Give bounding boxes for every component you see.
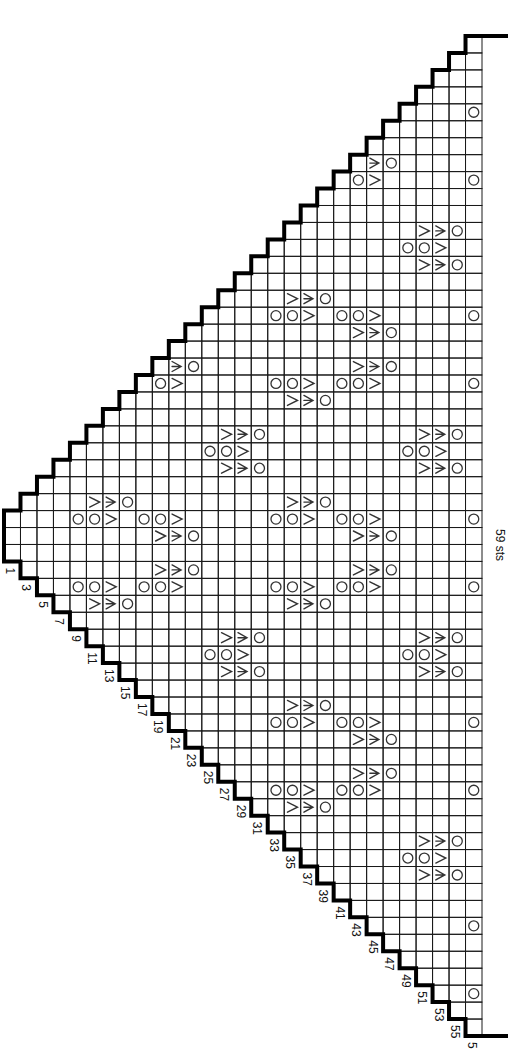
chart-cell: [317, 205, 333, 222]
yarn-over-icon: [386, 565, 396, 575]
yarn-over-icon: [353, 785, 363, 795]
chart-cell: [466, 629, 482, 646]
chart-cell: [202, 646, 218, 663]
chart-cell: [86, 443, 102, 460]
chart-cell: [251, 307, 267, 324]
chart-cell: [449, 595, 465, 612]
chart-cell: [235, 375, 251, 392]
chart-cell: [400, 799, 416, 816]
decrease-icon: [419, 667, 429, 677]
chart-cell: [334, 460, 350, 477]
chart-cell: [284, 307, 300, 324]
yarn-over-icon: [469, 989, 479, 999]
chart-cell: [449, 748, 465, 765]
chart-cell: [383, 409, 399, 426]
chart-cell: [103, 646, 119, 663]
double-decrease-icon: [238, 633, 247, 643]
row-label: 51: [415, 991, 429, 1005]
chart-cell: [284, 256, 300, 273]
decrease-icon: [287, 497, 297, 507]
chart-cell: [86, 578, 102, 595]
chart-cell: [466, 900, 482, 917]
chart-cell: [53, 460, 69, 477]
chart-cell: [400, 917, 416, 934]
chart-cell: [449, 816, 465, 833]
chart-cell: [152, 358, 168, 375]
chart-cell: [449, 273, 465, 290]
double-decrease-icon: [436, 226, 445, 236]
chart-cell: [433, 561, 449, 578]
chart-cell: [202, 392, 218, 409]
decrease-icon: [353, 531, 363, 541]
chart-cell: [218, 765, 234, 782]
chart-cell: [70, 494, 86, 511]
chart-cell: [251, 341, 267, 358]
chart-cell: [449, 900, 465, 917]
chart-cell: [317, 765, 333, 782]
chart-cell: [218, 324, 234, 341]
chart-cell: [152, 578, 168, 595]
decrease-icon: [304, 582, 314, 592]
chart-cell: [268, 816, 284, 833]
row-label: 11: [85, 652, 99, 665]
chart-cell: [185, 443, 201, 460]
chart-cell: [449, 544, 465, 561]
chart-cell: [86, 477, 102, 494]
chart-cell: [383, 273, 399, 290]
chart-cell: [334, 375, 350, 392]
double-decrease-icon: [304, 395, 313, 405]
row-label: 49: [399, 974, 413, 988]
chart-cell: [268, 561, 284, 578]
double-decrease-icon: [304, 497, 313, 507]
chart-cell: [268, 239, 284, 256]
chart-cell: [416, 172, 432, 189]
chart-cell: [317, 273, 333, 290]
chart-cell: [416, 951, 432, 968]
chart-cell: [103, 477, 119, 494]
chart-cell: [119, 460, 135, 477]
chart-cell: [350, 799, 366, 816]
chart-cell: [367, 544, 383, 561]
chart-cell: [284, 748, 300, 765]
chart-cell: [350, 239, 366, 256]
chart-cell: [334, 850, 350, 867]
chart-cell: [185, 697, 201, 714]
chart-cell: [383, 477, 399, 494]
chart-cell: [416, 494, 432, 511]
chart-cell: [301, 273, 317, 290]
chart-cell: [334, 409, 350, 426]
chart-cell: [251, 290, 267, 307]
double-decrease-icon: [304, 802, 313, 812]
chart-cell: [400, 782, 416, 799]
chart-cell: [251, 629, 267, 646]
chart-cell: [433, 782, 449, 799]
chart-cell: [37, 544, 53, 561]
chart-cell: [449, 121, 465, 138]
chart-cell: [136, 460, 152, 477]
chart-cell: [466, 189, 482, 206]
chart-cell: [433, 189, 449, 206]
chart-cell: [466, 460, 482, 477]
row-label: 19: [151, 720, 165, 734]
chart-cell: [383, 714, 399, 731]
chart-cell: [466, 53, 482, 70]
chart-cell: [218, 731, 234, 748]
decrease-icon: [222, 429, 232, 439]
chart-cell: [433, 155, 449, 172]
chart-cell: [449, 189, 465, 206]
chart-cell: [383, 612, 399, 629]
chart-cell: [416, 121, 432, 138]
chart-cell: [268, 697, 284, 714]
chart-cell: [268, 392, 284, 409]
chart-cell: [400, 629, 416, 646]
decrease-icon: [172, 378, 182, 388]
chart-cell: [416, 917, 432, 934]
chart-cell: [350, 833, 366, 850]
yarn-over-icon: [287, 582, 297, 592]
chart-cell: [268, 324, 284, 341]
chart-cell: [350, 900, 366, 917]
chart-cell: [235, 782, 251, 799]
chart-cell: [202, 561, 218, 578]
decrease-icon: [287, 599, 297, 609]
chart-cell: [152, 646, 168, 663]
